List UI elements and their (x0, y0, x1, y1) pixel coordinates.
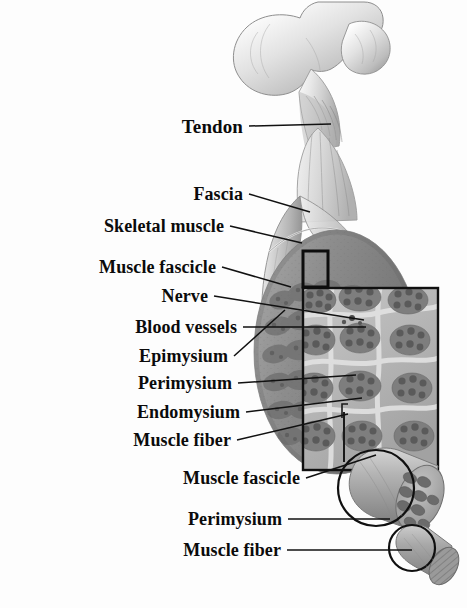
label-epimysium: Epimysium (139, 347, 228, 365)
label-blood-vessels: Blood vessels (135, 318, 237, 336)
muscle-structure-figure: Tendon Fascia Skeletal muscle Muscle fas… (0, 0, 467, 608)
label-muscle-fiber-2: Muscle fiber (183, 541, 281, 559)
label-fascia: Fascia (193, 185, 243, 203)
label-endomysium: Endomysium (137, 403, 240, 421)
femur-bone (233, 2, 390, 152)
label-perimysium-2: Perimysium (188, 510, 282, 528)
label-muscle-fiber-1: Muscle fiber (133, 431, 231, 449)
label-nerve: Nerve (162, 287, 208, 305)
label-muscle-fascicle-1: Muscle fascicle (99, 258, 216, 276)
label-muscle-fascicle-2: Muscle fascicle (183, 469, 300, 487)
fiber-cylinder (389, 525, 465, 590)
label-perimysium-1: Perimysium (138, 374, 232, 392)
label-skeletal-muscle: Skeletal muscle (104, 217, 224, 235)
label-tendon: Tendon (182, 117, 243, 136)
